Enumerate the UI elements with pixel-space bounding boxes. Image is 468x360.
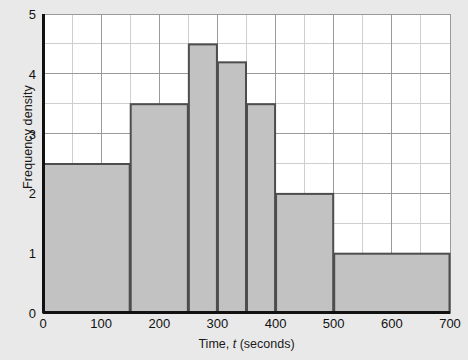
x-tick-label: 600 [381, 316, 403, 331]
x-axis-title-suffix: (seconds) [236, 337, 294, 351]
x-axis-title: Time, t (seconds) [43, 337, 450, 351]
histogram-figure: Frequency density Time, t (seconds) 0100… [0, 0, 468, 360]
x-tick-label: 700 [439, 316, 461, 331]
plot-area [43, 14, 450, 313]
x-axis-title-prefix: Time, [198, 337, 232, 351]
axis-layer [43, 14, 450, 313]
y-tick-label: 1 [29, 246, 36, 261]
x-tick-label: 300 [207, 316, 229, 331]
x-tick-label: 100 [90, 316, 112, 331]
x-tick-label: 200 [148, 316, 170, 331]
y-tick-label: 2 [29, 186, 36, 201]
y-tick-label: 3 [29, 126, 36, 141]
y-tick-label: 5 [29, 7, 36, 22]
y-tick-label: 4 [29, 66, 36, 81]
y-tick-label: 0 [29, 306, 36, 321]
x-tick-label: 0 [39, 316, 46, 331]
x-tick-label: 500 [323, 316, 345, 331]
x-tick-label: 400 [265, 316, 287, 331]
